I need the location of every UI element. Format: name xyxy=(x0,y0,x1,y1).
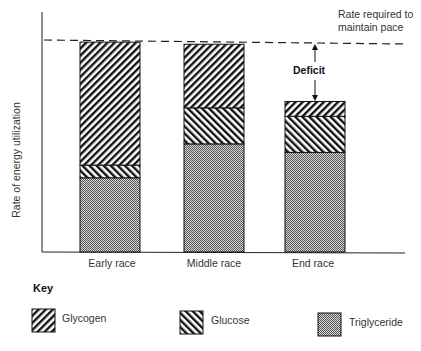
legend-label-glycogen: Glycogen xyxy=(62,312,106,324)
required-rate-label-line-1: Rate required to xyxy=(338,8,413,21)
bar-segment-glucose xyxy=(184,108,244,144)
x-label-middle-race: Middle race xyxy=(169,257,259,269)
y-axis-label: Rate of energy utilization xyxy=(10,102,22,218)
bar-segment-glycogen xyxy=(184,44,244,108)
legend-title: Key xyxy=(33,282,53,294)
required-rate-label: Rate required to maintain pace xyxy=(338,8,413,34)
legend-swatch-glycogen xyxy=(32,309,55,332)
legend-item-triglyceride: Triglyceride xyxy=(349,316,403,328)
legend-item-glycogen: Glycogen xyxy=(62,312,106,324)
legend-label-triglyceride: Triglyceride xyxy=(349,316,403,328)
legend-item-glucose: Glucose xyxy=(211,314,250,326)
bar-segment-glycogen xyxy=(285,101,345,116)
legend-label-glucose: Glucose xyxy=(211,314,250,326)
chart-canvas xyxy=(0,0,421,351)
bar-segment-glucose xyxy=(80,165,140,178)
bar-segment-glucose xyxy=(285,116,345,152)
bar-segment-triglyceride xyxy=(80,178,140,252)
x-label-end-race: End race xyxy=(268,257,358,269)
required-rate-label-line-2: maintain pace xyxy=(338,21,413,34)
bar-segment-glycogen xyxy=(80,42,140,165)
deficit-label: Deficit xyxy=(293,64,325,76)
x-label-early-race: Early race xyxy=(67,257,157,269)
y-axis-label-wrap: Rate of energy utilization xyxy=(4,60,28,260)
bar-segment-triglyceride xyxy=(285,152,345,252)
legend-swatch-triglyceride xyxy=(318,313,341,336)
legend-swatch-glucose xyxy=(180,311,203,334)
bar-segment-triglyceride xyxy=(184,144,244,252)
